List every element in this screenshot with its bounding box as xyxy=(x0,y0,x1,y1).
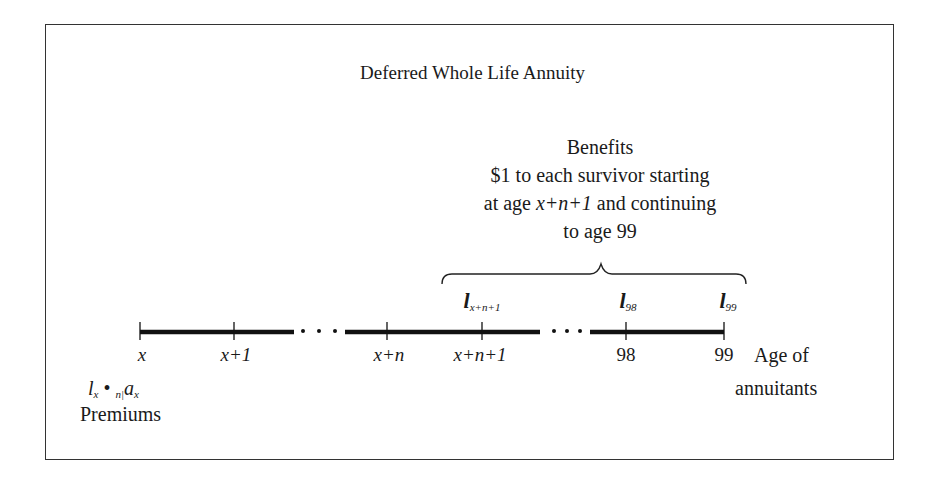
axis-label-line-1: Age of xyxy=(754,344,809,367)
survivors-99: l99 xyxy=(719,288,736,314)
survivors-x-n-1: lx+n+1 xyxy=(464,288,501,314)
tick-label-98: 98 xyxy=(617,344,636,366)
tick-label-x: x xyxy=(138,344,146,366)
axis-label-line-2: annuitants xyxy=(735,377,817,400)
tick-label-x-plus-1: x+1 xyxy=(221,344,252,366)
tick-label-99: 99 xyxy=(715,344,734,366)
premium-formula: lx • n|ax xyxy=(88,377,139,400)
tick-label-x-plus-n-plus-1: x+n+1 xyxy=(453,344,506,366)
survivors-98: l98 xyxy=(619,288,636,314)
tick-label-x-plus-n: x+n xyxy=(374,344,405,366)
benefit-period-brace xyxy=(442,264,746,284)
premiums-label: Premiums xyxy=(80,403,161,426)
